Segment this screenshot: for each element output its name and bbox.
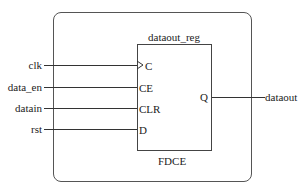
net-label-clk: clk — [0, 59, 42, 71]
wire-data-en[interactable] — [44, 87, 137, 88]
wire-dataout[interactable] — [212, 97, 265, 98]
instance-name: dataout_reg — [148, 31, 200, 43]
pin-d: D — [139, 124, 147, 136]
pin-c: C — [145, 60, 152, 72]
pin-clr: CLR — [139, 103, 160, 115]
net-label-datain: datain — [0, 102, 42, 114]
net-label-data-en: data_en — [0, 81, 42, 93]
net-label-dataout: dataout — [265, 91, 297, 103]
net-label-rst: rst — [0, 123, 42, 135]
wire-datain[interactable] — [44, 108, 137, 109]
cell-type: FDCE — [158, 155, 186, 167]
pin-q: Q — [200, 91, 208, 103]
pin-ce: CE — [139, 82, 153, 94]
clock-triangle-icon — [137, 61, 145, 70]
wire-rst[interactable] — [44, 129, 137, 130]
wire-clk[interactable] — [44, 65, 137, 66]
